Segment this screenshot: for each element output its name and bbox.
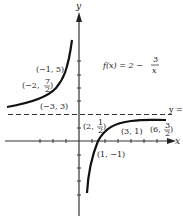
function-graph: x y y = 2 f(x) = 2 − 3 x (−1, 5) (−2, xyxy=(0,0,183,216)
point-label: (−3, 3) xyxy=(40,102,68,111)
point-label-close: ) xyxy=(103,122,106,131)
function-label-denominator: x xyxy=(152,66,157,75)
y-axis-label: y xyxy=(75,1,82,11)
asymptote-label: y = 2 xyxy=(168,105,183,114)
point-label-close: ) xyxy=(50,81,53,90)
point-label: (2, xyxy=(83,122,94,131)
function-label: f(x) = 2 − xyxy=(102,61,143,70)
point-label: (3, 1) xyxy=(121,127,143,136)
point-label: (−1, 5) xyxy=(36,65,64,74)
point-label-close: ) xyxy=(170,125,173,134)
point-label: (−2, xyxy=(22,81,39,90)
point-label: (1, −1) xyxy=(97,150,125,159)
y-axis-arrow-icon xyxy=(76,12,82,22)
x-axis-label: x xyxy=(175,136,180,146)
point-label: (6, xyxy=(150,125,161,134)
function-label-numerator: 3 xyxy=(153,55,158,64)
